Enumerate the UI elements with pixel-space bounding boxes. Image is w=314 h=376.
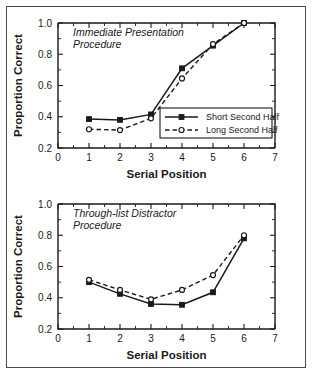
y-tick-label: 0.8 <box>38 49 52 60</box>
x-tick-label: 3 <box>148 333 154 344</box>
y-tick-label: 0.8 <box>38 230 52 241</box>
x-tick-label: 0 <box>55 333 61 344</box>
legend-marker <box>179 128 184 133</box>
data-point-marker <box>87 117 92 122</box>
legend-label: Long Second Half <box>206 125 278 135</box>
data-point-marker <box>87 277 92 282</box>
x-tick-label: 1 <box>86 333 92 344</box>
data-point-marker <box>180 287 185 292</box>
data-point-marker <box>211 273 216 278</box>
data-point-marker <box>149 116 154 121</box>
y-tick-label: 0.2 <box>38 143 52 154</box>
y-tick-label: 0.2 <box>38 324 52 335</box>
x-tick-label: 2 <box>117 152 123 163</box>
data-point-marker <box>87 127 92 132</box>
x-tick-label: 7 <box>272 152 278 163</box>
data-point-marker <box>211 290 216 295</box>
data-point-marker <box>242 21 247 26</box>
y-tick-label: 1.0 <box>38 199 52 210</box>
x-tick-label: 4 <box>179 152 185 163</box>
chart-svg-bottom: 012345670.20.40.60.81.0Serial PositionPr… <box>7 188 307 369</box>
data-point-marker <box>180 302 185 307</box>
y-tick-label: 0.6 <box>38 261 52 272</box>
x-axis-title: Serial Position <box>127 349 207 361</box>
data-point-marker <box>180 66 185 71</box>
data-point-marker <box>118 287 123 292</box>
data-point-marker <box>211 42 216 47</box>
y-tick-label: 1.0 <box>38 18 52 29</box>
x-tick-label: 6 <box>241 152 247 163</box>
chart-legend: Short Second HalfLong Second Half <box>160 108 280 138</box>
panel-title-line1: Immediate Presentation <box>73 26 184 38</box>
x-tick-label: 5 <box>210 333 216 344</box>
data-point-marker <box>242 233 247 238</box>
panel-title-line2: Procedure <box>73 219 122 231</box>
y-axis-title: Proportion Correct <box>12 215 24 318</box>
data-point-marker <box>118 117 123 122</box>
x-tick-label: 6 <box>241 333 247 344</box>
series-line-long-second-half <box>89 235 244 299</box>
y-axis-title: Proportion Correct <box>12 34 24 137</box>
figure-outer-frame: 012345670.20.40.60.81.0Serial PositionPr… <box>6 6 306 368</box>
x-tick-label: 1 <box>86 152 92 163</box>
y-tick-label: 0.6 <box>38 80 52 91</box>
panel-title-line1: Through-list Distractor <box>73 207 177 219</box>
series-line-short-second-half <box>89 238 244 304</box>
panel-title-line2: Procedure <box>73 38 122 50</box>
x-tick-label: 2 <box>117 333 123 344</box>
x-axis-title: Serial Position <box>127 168 207 180</box>
data-point-marker <box>118 128 123 133</box>
legend-marker <box>179 115 184 120</box>
x-tick-label: 5 <box>210 152 216 163</box>
x-tick-label: 3 <box>148 152 154 163</box>
x-tick-label: 0 <box>55 152 61 163</box>
data-point-marker <box>180 76 185 81</box>
chart-panel-immediate-presentation: 012345670.20.40.60.81.0Serial PositionPr… <box>7 7 307 188</box>
x-tick-label: 7 <box>272 333 278 344</box>
chart-panel-through-list-distractor: 012345670.20.40.60.81.0Serial PositionPr… <box>7 188 307 369</box>
data-point-marker <box>149 297 154 302</box>
chart-svg-top: 012345670.20.40.60.81.0Serial PositionPr… <box>7 7 307 188</box>
x-tick-label: 4 <box>179 333 185 344</box>
y-tick-label: 0.4 <box>38 292 52 303</box>
legend-label: Short Second Half <box>206 112 280 122</box>
y-tick-label: 0.4 <box>38 111 52 122</box>
